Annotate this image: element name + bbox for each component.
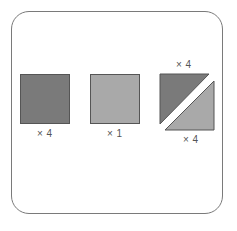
light-triangle-count: × 4 (183, 134, 199, 145)
light-square (90, 74, 140, 124)
dark-square (20, 74, 70, 124)
half-square-triangles (160, 74, 216, 132)
dark-triangle-count: × 4 (176, 59, 192, 70)
dark-square-count: × 4 (37, 128, 53, 139)
light-square-count: × 1 (107, 128, 123, 139)
